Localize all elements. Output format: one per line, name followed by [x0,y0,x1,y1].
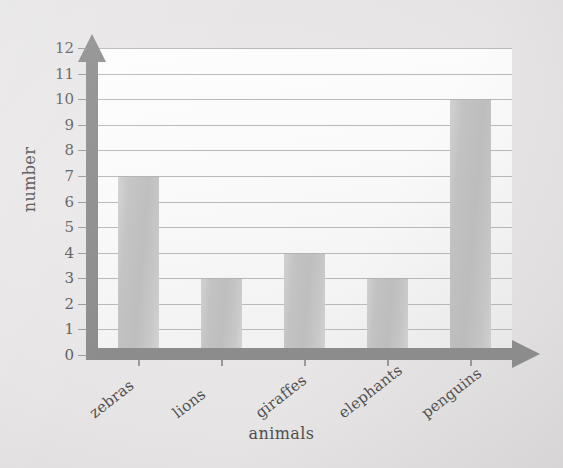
y-tick-8 [78,150,87,151]
bar-elephants [367,278,408,355]
y-tick-0 [78,355,87,356]
x-axis-line [86,348,516,360]
y-tick-label-4: 4 [48,245,74,260]
y-tick-labels-group: 0123456789101112 [44,0,74,468]
y-tick-3 [78,278,87,279]
y-tick-label-7: 7 [48,168,74,183]
bar-giraffes [284,253,325,355]
x-category-label-giraffes: giraffes [251,371,309,422]
y-tick-12 [78,48,87,49]
bar-zebras [118,176,159,355]
y-tick-5 [78,227,87,228]
y-tick-label-6: 6 [48,194,74,209]
bar-penguins [450,99,491,355]
y-tick-11 [78,74,87,75]
x-axis-title: animals [0,424,563,443]
y-tick-label-12: 12 [48,41,74,56]
x-category-label-zebras: zebras [85,376,137,422]
y-axis-line [86,60,98,360]
y-tick-label-2: 2 [48,296,74,311]
x-category-label-lions: lions [168,385,208,422]
plot-area [97,48,512,355]
x-axis-arrowhead-icon [512,340,540,368]
y-tick-label-3: 3 [48,271,74,286]
gridline-11 [97,74,512,75]
y-axis-title: number [20,135,39,225]
y-tick-7 [78,176,87,177]
y-tick-label-9: 9 [48,117,74,132]
y-tick-label-5: 5 [48,220,74,235]
y-tick-4 [78,253,87,254]
y-tick-9 [78,125,87,126]
x-category-label-elephants: elephants [334,361,405,422]
x-tick-giraffes [304,360,306,366]
gridline-12 [97,48,512,49]
y-tick-label-8: 8 [48,143,74,158]
bar-lions [201,278,242,355]
y-tick-label-1: 1 [48,322,74,337]
y-tick-1 [78,329,87,330]
x-tick-lions [221,360,223,366]
y-tick-2 [78,304,87,305]
bar-chart-figure: 0123456789101112 zebraslionsgiraffeselep… [0,0,563,468]
y-tick-10 [78,99,87,100]
y-tick-label-0: 0 [48,348,74,363]
x-category-label-penguins: penguins [417,364,484,422]
y-tick-label-10: 10 [48,92,74,107]
x-tick-zebras [138,360,140,366]
y-tick-6 [78,202,87,203]
y-tick-label-11: 11 [48,66,74,81]
